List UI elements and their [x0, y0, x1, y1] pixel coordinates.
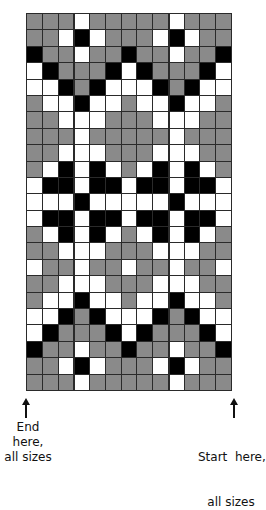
chart-cell: [122, 358, 137, 373]
chart-cell: [200, 194, 215, 209]
chart-cell: [27, 260, 42, 275]
chart-cell: [122, 129, 137, 144]
chart-cell: [59, 342, 74, 357]
chart-cell: [43, 375, 58, 390]
chart-cell: [153, 80, 168, 95]
chart-cell: [137, 342, 152, 357]
chart-cell: [137, 63, 152, 78]
chart-cell: [153, 276, 168, 291]
chart-cell: [169, 63, 184, 78]
chart-cell: [122, 30, 137, 45]
chart-cell: [137, 325, 152, 340]
chart-cell: [185, 276, 200, 291]
chart-cell: [27, 162, 42, 177]
chart-cell: [185, 358, 200, 373]
chart-cell: [59, 375, 74, 390]
chart-cell: [27, 342, 42, 357]
chart-cell: [106, 243, 121, 258]
chart-cell: [122, 342, 137, 357]
repeat-divider-left: [73, 13, 75, 391]
chart-cell: [185, 129, 200, 144]
chart-cell: [27, 14, 42, 29]
chart-cell: [200, 162, 215, 177]
chart-cell: [74, 178, 89, 193]
chart-cell: [43, 30, 58, 45]
chart-cell: [74, 309, 89, 324]
chart-cell: [137, 14, 152, 29]
chart-cell: [27, 47, 42, 62]
arrow-up-icon: [21, 398, 31, 418]
chart-cell: [43, 260, 58, 275]
chart-cell: [169, 325, 184, 340]
chart-cell: [169, 178, 184, 193]
chart-cell: [59, 358, 74, 373]
chart-cell: [74, 243, 89, 258]
chart-cell: [169, 260, 184, 275]
chart-cell: [169, 358, 184, 373]
chart-cell: [27, 375, 42, 390]
repeat-divider-right: [168, 13, 170, 391]
chart-cell: [74, 276, 89, 291]
chart-cell: [27, 276, 42, 291]
chart-cell: [200, 145, 215, 160]
chart-cell: [59, 30, 74, 45]
chart-cell: [200, 309, 215, 324]
chart-cell: [59, 14, 74, 29]
chart-cell: [216, 342, 231, 357]
chart-cell: [122, 375, 137, 390]
chart-cell: [216, 112, 231, 127]
chart-cell: [74, 325, 89, 340]
chart-cell: [185, 178, 200, 193]
chart-cell: [185, 80, 200, 95]
chart-cell: [169, 211, 184, 226]
chart-cell: [185, 145, 200, 160]
chart-cell: [59, 129, 74, 144]
chart-cell: [59, 80, 74, 95]
chart-cell: [27, 194, 42, 209]
chart-cell: [90, 293, 105, 308]
chart-cell: [169, 375, 184, 390]
chart-cell: [200, 358, 215, 373]
chart-cell: [137, 243, 152, 258]
chart-cell: [90, 194, 105, 209]
chart-cell: [200, 227, 215, 242]
chart-cell: [216, 375, 231, 390]
chart-cell: [27, 309, 42, 324]
chart-cell: [27, 358, 42, 373]
chart-cell: [216, 260, 231, 275]
chart-cell: [74, 342, 89, 357]
chart-cell: [59, 293, 74, 308]
chart-cell: [153, 63, 168, 78]
chart-cell: [27, 63, 42, 78]
chart-cell: [169, 14, 184, 29]
chart-cell: [169, 162, 184, 177]
chart-cell: [153, 129, 168, 144]
chart-cell: [74, 260, 89, 275]
chart-cell: [90, 309, 105, 324]
chart-cell: [185, 227, 200, 242]
chart-cell: [43, 243, 58, 258]
chart-cell: [74, 63, 89, 78]
chart-cell: [74, 129, 89, 144]
chart-cell: [137, 293, 152, 308]
end-label-line1: End here,: [0, 420, 56, 450]
chart-cell: [90, 47, 105, 62]
chart-cell: [59, 325, 74, 340]
chart-cell: [106, 14, 121, 29]
chart-cell: [90, 178, 105, 193]
chart-cell: [90, 243, 105, 258]
chart-cell: [185, 325, 200, 340]
chart-cell: [90, 211, 105, 226]
chart-cell: [74, 112, 89, 127]
chart-cell: [153, 211, 168, 226]
chart-cell: [216, 178, 231, 193]
chart-cell: [153, 194, 168, 209]
chart-cell: [153, 293, 168, 308]
end-here-label: End here, all sizes: [0, 420, 56, 465]
chart-cell: [27, 30, 42, 45]
chart-cell: [106, 293, 121, 308]
chart-cell: [74, 80, 89, 95]
chart-cell: [122, 276, 137, 291]
chart-cell: [106, 129, 121, 144]
chart-cell: [43, 112, 58, 127]
